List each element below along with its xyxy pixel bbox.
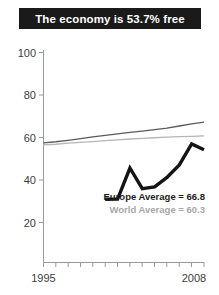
y-axis-ticks <box>39 53 44 223</box>
chart-plot-area: 100 80 60 40 20 1995 2008 <box>0 0 219 295</box>
annotation-world-average: World Average = 60.3 <box>110 204 205 215</box>
annotation-europe-average: Europe Average = 66.8 <box>104 191 205 202</box>
y-axis-tick-labels: 100 80 60 40 20 <box>18 47 36 229</box>
ytick-label-40: 40 <box>24 174 36 186</box>
xtick-label-end: 2008 <box>182 272 206 284</box>
ytick-label-100: 100 <box>18 47 36 59</box>
ytick-label-80: 80 <box>24 89 36 101</box>
xtick-label-start: 1995 <box>31 272 55 284</box>
axis-lines <box>44 50 205 263</box>
economy-freedom-chart-widget: The economy is 53.7% free 100 80 60 40 2… <box>0 0 219 295</box>
x-axis-ticks <box>44 263 205 268</box>
ytick-label-20: 20 <box>24 217 36 229</box>
ytick-label-60: 60 <box>24 132 36 144</box>
x-axis-tick-labels: 1995 2008 <box>31 272 206 284</box>
